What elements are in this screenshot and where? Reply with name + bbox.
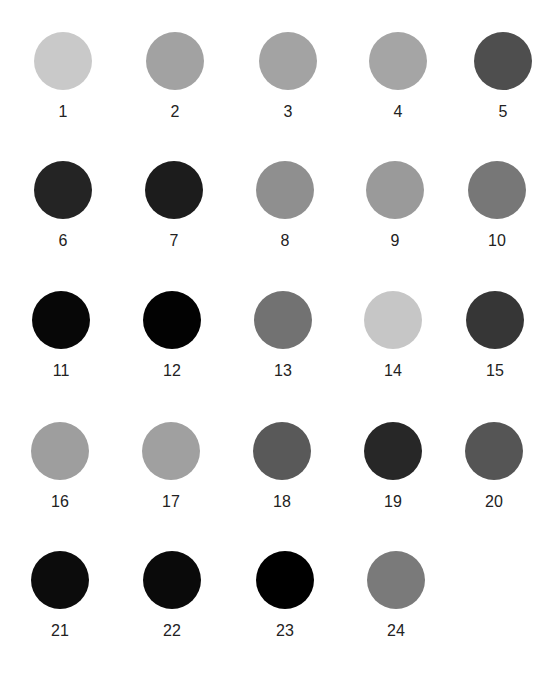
swatch-label: 12 — [137, 362, 207, 380]
swatch-5: 5 — [468, 32, 538, 121]
gray-circle — [259, 32, 317, 90]
swatch-label: 11 — [26, 362, 96, 380]
gray-circle — [145, 161, 203, 219]
swatch-15: 15 — [460, 291, 530, 380]
gray-circle — [465, 422, 523, 480]
swatch-13: 13 — [248, 291, 318, 380]
gray-circle — [367, 551, 425, 609]
gray-circle — [146, 32, 204, 90]
swatch-label: 19 — [358, 493, 428, 511]
swatch-24: 24 — [361, 551, 431, 640]
swatch-label: 21 — [25, 622, 95, 640]
swatch-17: 17 — [136, 422, 206, 511]
swatch-22: 22 — [137, 551, 207, 640]
gray-circle — [364, 291, 422, 349]
gray-circle — [31, 422, 89, 480]
gray-circle — [474, 32, 532, 90]
swatch-label: 9 — [360, 232, 430, 250]
gray-circle — [369, 32, 427, 90]
swatch-label: 2 — [140, 103, 210, 121]
swatch-label: 18 — [247, 493, 317, 511]
swatch-7: 7 — [139, 161, 209, 250]
swatch-label: 1 — [28, 103, 98, 121]
swatch-9: 9 — [360, 161, 430, 250]
swatch-label: 23 — [250, 622, 320, 640]
swatch-14: 14 — [358, 291, 428, 380]
gray-circle — [468, 161, 526, 219]
gray-circle — [364, 422, 422, 480]
gray-circle — [366, 161, 424, 219]
swatch-label: 15 — [460, 362, 530, 380]
gray-circle — [253, 422, 311, 480]
swatch-label: 14 — [358, 362, 428, 380]
swatch-19: 19 — [358, 422, 428, 511]
swatch-3: 3 — [253, 32, 323, 121]
swatch-label: 5 — [468, 103, 538, 121]
swatch-20: 20 — [459, 422, 529, 511]
gray-circle — [466, 291, 524, 349]
swatch-1: 1 — [28, 32, 98, 121]
gray-circle — [143, 291, 201, 349]
gray-circle — [34, 32, 92, 90]
swatch-label: 10 — [462, 232, 532, 250]
gray-circle — [256, 161, 314, 219]
swatch-label: 22 — [137, 622, 207, 640]
swatch-label: 6 — [28, 232, 98, 250]
swatch-label: 16 — [25, 493, 95, 511]
swatch-6: 6 — [28, 161, 98, 250]
gray-circle — [142, 422, 200, 480]
gray-circle — [254, 291, 312, 349]
swatch-label: 3 — [253, 103, 323, 121]
swatch-label: 24 — [361, 622, 431, 640]
swatch-label: 7 — [139, 232, 209, 250]
swatch-16: 16 — [25, 422, 95, 511]
swatch-4: 4 — [363, 32, 433, 121]
swatch-23: 23 — [250, 551, 320, 640]
swatch-10: 10 — [462, 161, 532, 250]
swatch-2: 2 — [140, 32, 210, 121]
swatch-label: 13 — [248, 362, 318, 380]
gray-circle — [32, 291, 90, 349]
swatch-18: 18 — [247, 422, 317, 511]
swatch-11: 11 — [26, 291, 96, 380]
swatch-label: 8 — [250, 232, 320, 250]
gray-circle — [256, 551, 314, 609]
swatch-21: 21 — [25, 551, 95, 640]
swatch-label: 20 — [459, 493, 529, 511]
swatch-8: 8 — [250, 161, 320, 250]
gray-circle — [31, 551, 89, 609]
gray-circle — [143, 551, 201, 609]
gray-circle — [34, 161, 92, 219]
swatch-12: 12 — [137, 291, 207, 380]
swatch-label: 17 — [136, 493, 206, 511]
swatch-label: 4 — [363, 103, 433, 121]
